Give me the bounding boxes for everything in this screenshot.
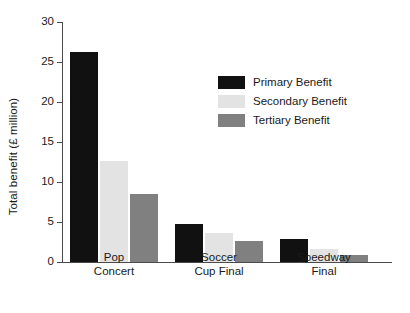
y-tick-label: 25 [14, 56, 54, 68]
y-tick-label: 15 [14, 136, 54, 148]
y-tick-label: 20 [14, 96, 54, 108]
bar-chart: Total benefit (£ million) 051015202530 P… [0, 0, 410, 313]
bar [100, 161, 128, 262]
y-tick-label: 10 [14, 176, 54, 188]
legend-label: Secondary Benefit [253, 95, 347, 108]
x-category-label: Speedway Final [262, 250, 386, 278]
legend-label: Tertiary Benefit [253, 114, 330, 127]
legend-item: Secondary Benefit [218, 95, 347, 108]
bars-layer [62, 22, 392, 262]
y-tick-label: 0 [14, 256, 54, 268]
legend: Primary BenefitSecondary BenefitTertiary… [218, 76, 347, 127]
legend-swatch-icon [218, 114, 245, 127]
legend-item: Tertiary Benefit [218, 114, 347, 127]
legend-item: Primary Benefit [218, 76, 347, 89]
legend-swatch-icon [218, 76, 245, 89]
bar [70, 52, 98, 262]
plot-area: 051015202530 [62, 22, 392, 262]
y-tick-label: 5 [14, 216, 54, 228]
y-tick-label: 30 [14, 16, 54, 28]
legend-swatch-icon [218, 95, 245, 108]
legend-label: Primary Benefit [253, 76, 332, 89]
